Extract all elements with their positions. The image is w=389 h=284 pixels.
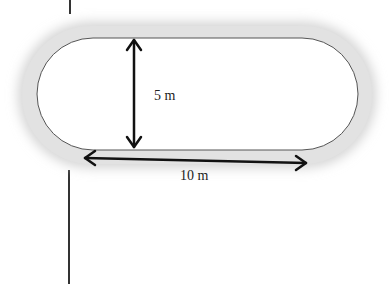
track-diagram: [0, 0, 389, 284]
width-label: 10 m: [180, 168, 208, 184]
height-label: 5 m: [154, 88, 175, 104]
track-inner: [37, 38, 358, 150]
